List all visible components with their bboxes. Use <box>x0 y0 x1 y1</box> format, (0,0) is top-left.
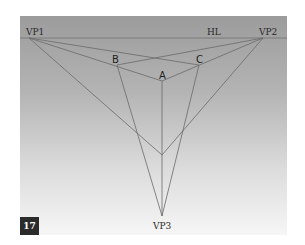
point-c-label: C <box>196 54 203 65</box>
vp2-to-b-line <box>117 38 263 65</box>
vp3-label: VP3 <box>152 221 172 231</box>
three-point-perspective-diagram: VP1 HL VP2 B C A VP3 <box>0 0 305 245</box>
vp1-label: VP1 <box>25 27 44 37</box>
vp2-to-a-line <box>162 38 263 81</box>
point-b-label: B <box>112 54 119 65</box>
figure-number-badge: 17 <box>20 217 39 235</box>
horizon-label: HL <box>207 27 221 37</box>
point-a-label: A <box>159 70 166 81</box>
vp1-to-a-line <box>29 38 162 81</box>
vp2-label: VP2 <box>258 27 277 37</box>
b-to-vp3-line <box>117 65 162 216</box>
vp2-to-bottom-line <box>162 38 263 155</box>
c-to-vp3-line <box>162 65 199 216</box>
